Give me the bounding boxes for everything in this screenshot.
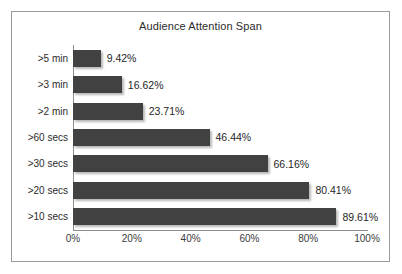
bar-row: >60 secs46.44% [73, 124, 367, 150]
x-tick-label: 100% [354, 233, 380, 244]
bar [73, 182, 309, 199]
x-axis-line [73, 230, 368, 231]
x-tick-label: 60% [239, 233, 259, 244]
bar-row: >10 secs89.61% [73, 204, 367, 230]
bar-row: >2 min23.71% [73, 98, 367, 124]
x-tick-label: 0% [66, 233, 80, 244]
plot-area: >5 min9.42%>3 min16.62%>2 min23.71%>60 s… [73, 45, 367, 230]
x-axis-tick-labels: 0%20%40%60%80%100% [73, 233, 367, 249]
chart-frame: Audience Attention Span >5 min9.42%>3 mi… [11, 11, 390, 262]
x-tick-label: 20% [122, 233, 142, 244]
bar-row: >3 min16.62% [73, 71, 367, 97]
bar-value-label: 23.71% [143, 98, 185, 124]
chart-title: Audience Attention Span [12, 20, 389, 32]
category-label: >2 min [38, 98, 73, 124]
bar-row: >5 min9.42% [73, 45, 367, 71]
category-label: >5 min [38, 45, 73, 71]
bar [73, 50, 101, 67]
bar [73, 103, 143, 120]
category-label: >20 secs [28, 177, 73, 203]
bar [73, 76, 122, 93]
category-label: >10 secs [28, 204, 73, 230]
bar-value-label: 89.61% [336, 204, 378, 230]
bar [73, 129, 210, 146]
bar-value-label: 16.62% [122, 71, 164, 97]
bar-value-label: 46.44% [210, 124, 252, 150]
category-label: >60 secs [28, 124, 73, 150]
bar-value-label: 9.42% [101, 45, 137, 71]
bar [73, 208, 336, 225]
bar-value-label: 66.16% [268, 151, 310, 177]
category-label: >30 secs [28, 151, 73, 177]
category-label: >3 min [38, 71, 73, 97]
x-tick-label: 40% [181, 233, 201, 244]
bar [73, 155, 268, 172]
bar-row: >30 secs66.16% [73, 151, 367, 177]
bar-value-label: 80.41% [309, 177, 351, 203]
bar-row: >20 secs80.41% [73, 177, 367, 203]
x-tick-label: 80% [298, 233, 318, 244]
